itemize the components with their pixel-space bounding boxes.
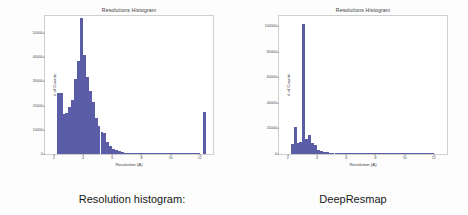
y-axis-tick-mark [277, 128, 279, 129]
histogram-bar [302, 24, 305, 154]
x-axis-tick-label: 10 [403, 156, 407, 160]
plot-frame: # of Counts 020000400006000080000100000 … [278, 15, 448, 155]
x-axis-tick-mark [141, 154, 142, 156]
y-axis-tick-label: 100000 [265, 24, 277, 28]
panel-deepresmap: Resolutions Histogram # of Counts 020000… [234, 0, 468, 215]
y-axis-tick-mark [43, 105, 45, 106]
y-axis-tick-label: 40000 [267, 101, 277, 105]
chart-title: Resolutions Histogram [40, 7, 218, 13]
plot-area [45, 16, 213, 154]
x-axis-tick-label: 4 [316, 156, 318, 160]
panel-original: Resolutions Histogram # of Counts 010000… [0, 0, 234, 215]
y-axis-tick-mark [277, 26, 279, 27]
y-axis-tick-label: 30000 [33, 79, 43, 83]
y-axis-tick-mark [43, 129, 45, 130]
x-axis-tick-mark [170, 154, 171, 156]
figure-deepresmap: Resolutions Histogram # of Counts 020000… [252, 6, 452, 178]
x-axis-tick-label: 8 [140, 156, 142, 160]
y-axis-tick-mark [277, 77, 279, 78]
y-axis-tick-label: 40000 [33, 55, 43, 59]
histogram-bars [45, 16, 213, 154]
panel-caption: Resolution histogram: [0, 193, 234, 205]
x-axis-tick-label: 8 [374, 156, 376, 160]
histogram-bar [203, 112, 206, 154]
panel-caption: DeepResmap [234, 193, 468, 205]
y-axis-tick-label: 20000 [33, 104, 43, 108]
y-axis-tick-mark [277, 103, 279, 104]
y-axis-tick-mark [43, 154, 45, 155]
y-axis-tick-label: 50000 [33, 31, 43, 35]
x-axis-tick-label: 2 [287, 156, 289, 160]
x-axis-tick-mark [404, 154, 405, 156]
plot-frame: # of Counts 01000020000300004000050000 2… [44, 15, 214, 155]
y-axis-tick-label: 10000 [33, 128, 43, 132]
x-axis-tick-mark [375, 154, 376, 156]
x-axis-tick-label: 12 [198, 156, 202, 160]
y-axis-tick-mark [277, 154, 279, 155]
plot-area [279, 16, 447, 154]
x-axis-tick-mark [200, 154, 201, 156]
y-axis-tick-label: 20000 [267, 126, 277, 130]
x-axis-tick-mark [346, 154, 347, 156]
x-axis-tick-mark [83, 154, 84, 156]
chart-title: Resolutions Histogram [274, 7, 452, 13]
y-axis-tick-label: 60000 [267, 75, 277, 79]
y-axis-tick-mark [43, 57, 45, 58]
x-axis-tick-mark [112, 154, 113, 156]
slide-root: Resolutions Histogram # of Counts 010000… [0, 0, 468, 215]
y-axis-tick-mark [43, 33, 45, 34]
x-axis-tick-label: 6 [111, 156, 113, 160]
y-axis-tick-mark [277, 51, 279, 52]
x-axis-label: Resolution (A) [45, 162, 213, 167]
x-axis-tick-label: 2 [53, 156, 55, 160]
x-axis-tick-label: 12 [432, 156, 436, 160]
x-axis-tick-label: 4 [82, 156, 84, 160]
x-axis-label: Resolution (A) [279, 162, 447, 167]
x-axis-tick-mark [53, 154, 54, 156]
x-axis-tick-mark [317, 154, 318, 156]
y-axis-tick-label: 80000 [267, 50, 277, 54]
histogram-bars [279, 16, 447, 154]
x-axis-tick-label: 6 [345, 156, 347, 160]
x-axis-tick-label: 10 [169, 156, 173, 160]
y-axis-tick-mark [43, 81, 45, 82]
x-axis-tick-mark [434, 154, 435, 156]
x-axis-tick-mark [287, 154, 288, 156]
figure-original: Resolutions Histogram # of Counts 010000… [18, 6, 218, 178]
